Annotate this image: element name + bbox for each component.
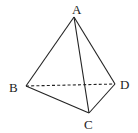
- edge-AB: [26, 17, 74, 86]
- vertex-label-C: C: [84, 117, 93, 132]
- edge-AC: [74, 17, 89, 113]
- edges: [26, 17, 115, 113]
- edge-BD-hidden: [26, 84, 115, 86]
- vertex-label-B: B: [9, 80, 18, 95]
- tetrahedron-diagram: A B C D: [0, 0, 138, 133]
- edge-BC: [26, 86, 89, 113]
- vertex-labels: A B C D: [9, 2, 129, 132]
- edge-CD: [89, 84, 115, 113]
- vertex-label-D: D: [120, 77, 129, 92]
- vertex-label-A: A: [72, 2, 82, 17]
- edge-AD: [74, 17, 115, 84]
